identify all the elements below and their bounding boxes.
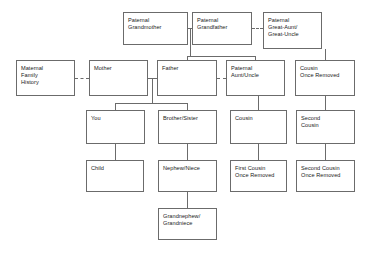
node-cousin: Cousin xyxy=(230,110,287,144)
edge-brother-to-nephew xyxy=(187,144,188,161)
edge-you-to-child xyxy=(115,144,116,161)
edge-grandfather-greataunt xyxy=(252,28,263,29)
node-second-cousin-once-removed: Second Cousin Once Removed xyxy=(296,160,355,192)
node-mother: Mother xyxy=(89,60,148,96)
edge-grandparents-drop xyxy=(190,28,191,57)
node-child: Child xyxy=(86,160,144,192)
node-you: You xyxy=(86,110,145,144)
edge-second-cousin-to-once-removed xyxy=(325,144,326,161)
node-father: Father xyxy=(157,60,217,96)
node-grandnephew-grandniece: Grandnephew/ Grandniece xyxy=(158,208,217,240)
node-brother-sister: Brother/Sister xyxy=(158,110,217,144)
node-second-cousin: Second Cousin xyxy=(296,110,355,144)
node-nephew-niece: Nephew/Niece xyxy=(158,160,217,192)
family-tree-diagram: Paternal Grandmother Paternal Grandfathe… xyxy=(0,0,369,253)
node-paternal-great-aunt-uncle: Paternal Great-Aunt/ Great-Uncle xyxy=(263,12,322,49)
edge-grandparents-bus xyxy=(187,56,256,57)
node-cousin-once-removed: Cousin Once Removed xyxy=(295,60,355,96)
node-paternal-grandmother: Paternal Grandmother xyxy=(123,12,188,45)
edge-parents-drop xyxy=(152,78,153,104)
node-first-cousin-once-removed: First Cousin Once Removed xyxy=(230,160,287,192)
node-paternal-grandfather: Paternal Grandfather xyxy=(192,12,252,45)
edge-father-paternal-aunt xyxy=(217,78,226,79)
edge-cousin-to-first-cousin-once-removed xyxy=(258,144,259,161)
edge-parents-bus xyxy=(115,103,188,104)
node-maternal-family-history: Maternal Family History xyxy=(16,60,75,96)
edge-cousin-once-to-second-cousin xyxy=(325,96,326,111)
edge-paternal-aunt-to-cousin xyxy=(258,96,259,111)
edge-maternal-history-mother xyxy=(75,78,89,79)
node-paternal-aunt-uncle: Paternal Aunt/Uncle xyxy=(226,60,285,96)
edge-nephew-to-grandnephew xyxy=(187,192,188,209)
